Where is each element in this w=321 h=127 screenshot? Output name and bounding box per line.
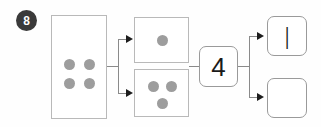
worksheet-canvas: 8 4 |	[0, 0, 321, 127]
part-blank-numeral-value	[267, 78, 307, 118]
connector-split-right	[249, 36, 250, 98]
one-counter-box[interactable]	[134, 17, 189, 63]
arrowhead-to-one-counter-box	[126, 35, 133, 43]
question-number-badge: 8	[16, 10, 37, 31]
counter-dot	[64, 59, 75, 70]
counter-dot	[84, 59, 95, 70]
counter-dot	[157, 98, 168, 109]
arrowhead-to-part-filled-box	[257, 32, 264, 40]
connector-split-left	[118, 39, 119, 94]
arrowhead-to-three-counters-box	[126, 89, 133, 97]
four-counters-box[interactable]	[51, 15, 107, 119]
question-number-label: 8	[23, 15, 30, 27]
counter-dot	[64, 78, 75, 89]
part-filled-numeral-value: |	[267, 16, 307, 56]
whole-numeral-value: 4	[199, 46, 238, 87]
three-counters-box[interactable]	[134, 69, 189, 117]
counter-dot	[157, 35, 168, 46]
counter-dot	[148, 81, 159, 92]
arrowhead-to-part-blank-box	[257, 93, 264, 101]
counter-dot	[84, 78, 95, 89]
counter-dot	[166, 81, 177, 92]
